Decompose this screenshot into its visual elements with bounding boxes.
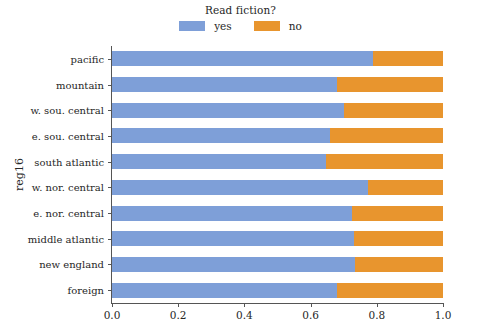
x-axis-spine	[111, 303, 443, 304]
y-tick-label-foreign: foreign	[68, 285, 104, 296]
legend-swatch-yes	[179, 21, 205, 31]
bar-segment-yes	[112, 103, 344, 118]
y-tick	[108, 136, 112, 137]
y-tick-label-mountain: mountain	[56, 79, 104, 90]
y-tick-label-south-atlantic: south atlantic	[34, 156, 104, 167]
x-tick	[178, 303, 179, 307]
bar-row	[112, 180, 443, 195]
bar-row	[112, 283, 443, 298]
x-tick-label-0.2: 0.2	[170, 309, 187, 321]
bar-row	[112, 231, 443, 246]
x-tick-label-0.8: 0.8	[368, 309, 385, 321]
bar-segment-yes	[112, 77, 337, 92]
bar-row	[112, 77, 443, 92]
y-tick-label-e-nor-central: e. nor. central	[33, 208, 104, 219]
chart-figure: Read fiction? yesno reg16 pacificmountai…	[0, 0, 481, 335]
y-tick-label-middle-atlantic: middle atlantic	[28, 233, 104, 244]
y-tick	[108, 239, 112, 240]
legend-entry-yes[interactable]: yes	[179, 20, 232, 32]
legend-swatch-no	[254, 21, 280, 31]
bar-row	[112, 154, 443, 169]
y-axis-title-text: reg16	[13, 158, 26, 191]
bar-segment-yes	[112, 154, 326, 169]
x-tick-label-0.4: 0.4	[236, 309, 253, 321]
bar-segment-yes	[112, 283, 337, 298]
bar-segment-no	[337, 77, 443, 92]
bar-segment-no	[337, 283, 443, 298]
bar-row	[112, 206, 443, 221]
y-tick	[108, 110, 112, 111]
plot-area: pacificmountainw. sou. centrale. sou. ce…	[112, 46, 443, 303]
bar-row	[112, 103, 443, 118]
y-tick-label-w-sou-central: w. sou. central	[30, 105, 104, 116]
bar-segment-yes	[112, 51, 373, 66]
x-tick	[112, 303, 113, 307]
bar-segment-no	[344, 103, 443, 118]
x-tick-label-1.0: 1.0	[435, 309, 452, 321]
bar-segment-yes	[112, 206, 352, 221]
bar-row	[112, 128, 443, 143]
legend-title: Read fiction?	[205, 4, 276, 16]
legend-entry-no[interactable]: no	[254, 20, 302, 32]
bar-segment-no	[330, 128, 443, 143]
y-tick-label-new-england: new england	[39, 259, 104, 270]
bar-segment-no	[326, 154, 443, 169]
bar-segment-yes	[112, 180, 368, 195]
x-tick-label-0.0: 0.0	[104, 309, 121, 321]
y-tick-label-pacific: pacific	[71, 53, 104, 64]
bar-segment-no	[354, 231, 443, 246]
legend-items: yesno	[168, 20, 313, 32]
x-tick	[443, 303, 444, 307]
x-tick	[377, 303, 378, 307]
chart-legend: Read fiction? yesno	[0, 4, 481, 32]
x-tick	[244, 303, 245, 307]
y-tick	[108, 213, 112, 214]
bar-segment-no	[373, 51, 443, 66]
bar-segment-no	[368, 180, 443, 195]
bar-segment-yes	[112, 128, 330, 143]
y-tick	[108, 187, 112, 188]
bar-segment-yes	[112, 257, 355, 272]
bar-segment-no	[352, 206, 443, 221]
y-tick	[108, 59, 112, 60]
bar-segment-yes	[112, 231, 354, 246]
y-axis-title: reg16	[10, 46, 28, 303]
bar-segment-no	[355, 257, 443, 272]
x-tick-label-0.6: 0.6	[302, 309, 319, 321]
y-tick	[108, 162, 112, 163]
x-tick	[311, 303, 312, 307]
y-tick-label-w-nor-central: w. nor. central	[32, 182, 104, 193]
y-tick	[108, 290, 112, 291]
bar-row	[112, 257, 443, 272]
y-tick	[108, 264, 112, 265]
bar-row	[112, 51, 443, 66]
y-tick-label-e-sou-central: e. sou. central	[32, 130, 104, 141]
legend-label-no: no	[289, 20, 302, 32]
legend-label-yes: yes	[214, 20, 232, 32]
y-tick	[108, 85, 112, 86]
